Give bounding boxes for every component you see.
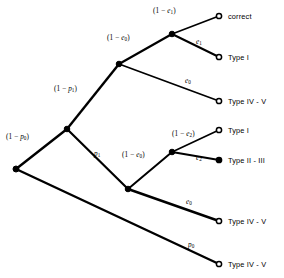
edge-node-b-to-type-iv-v bbox=[119, 64, 219, 101]
label-1-minus-p1: (1 − p1) bbox=[54, 86, 77, 93]
terminal-type-iv-v-upper bbox=[216, 98, 221, 103]
terminal-label-type-i-upper: Type I bbox=[228, 54, 249, 61]
terminal-type-iv-v-bottom bbox=[216, 261, 221, 266]
edge-node-c-to-correct bbox=[172, 16, 219, 34]
label-e0-lower: e0 bbox=[186, 199, 192, 206]
edges-group bbox=[16, 16, 219, 264]
terminal-label-type-i-lower: Type I bbox=[228, 127, 249, 134]
edge-node-a-to-node-b bbox=[67, 64, 119, 129]
terminal-type-iv-v-middle bbox=[216, 218, 221, 223]
nodes-group bbox=[13, 13, 222, 266]
terminal-label-type-iv-v-upper: Type IV - V bbox=[228, 98, 266, 105]
edge-node-a-to-node-d bbox=[67, 129, 128, 189]
label-p1: p1 bbox=[94, 151, 100, 158]
label-p0: p0 bbox=[188, 242, 194, 249]
probability-tree-diagram: (1 − e1)e1(1 − e0)e0(1 − p1)(1 − p0)p1(1… bbox=[0, 0, 284, 278]
terminal-label-correct: correct bbox=[228, 13, 252, 20]
node-after-p1 bbox=[125, 186, 131, 192]
terminal-type-i-upper bbox=[216, 54, 221, 59]
terminal-correct bbox=[216, 13, 221, 18]
edge-node-d-to-type-iv-v bbox=[128, 189, 219, 221]
root-node bbox=[13, 166, 19, 172]
node-after-1-minus-p1 bbox=[116, 61, 122, 67]
tree-graphics bbox=[0, 0, 284, 278]
node-after-1-minus-p0 bbox=[64, 126, 70, 132]
label-e0-upper: e0 bbox=[185, 78, 191, 85]
node-after-1-minus-e0-lower bbox=[169, 149, 175, 155]
terminal-type-i-lower bbox=[216, 127, 221, 132]
terminal-label-type-iv-v-middle: Type IV - V bbox=[228, 218, 266, 225]
terminal-label-type-iv-v-bottom: Type IV - V bbox=[228, 261, 266, 268]
terminal-type-ii-iii bbox=[216, 157, 221, 162]
label-1-minus-e0-upper: (1 − e0) bbox=[107, 35, 130, 42]
label-1-minus-e0-lower: (1 − e0) bbox=[122, 152, 145, 159]
terminal-label-type-ii-iii: Type II - III bbox=[228, 157, 265, 164]
edge-root-to-terminal-p0 bbox=[16, 169, 219, 264]
label-e1: e1 bbox=[196, 39, 202, 46]
label-e2: e2 bbox=[196, 155, 202, 162]
node-after-1-minus-e0-upper bbox=[169, 31, 175, 37]
label-1-minus-e2: (1 − e2) bbox=[172, 131, 195, 138]
label-1-minus-p0: (1 − p0) bbox=[6, 134, 29, 141]
label-1-minus-e1: (1 − e1) bbox=[153, 8, 176, 15]
